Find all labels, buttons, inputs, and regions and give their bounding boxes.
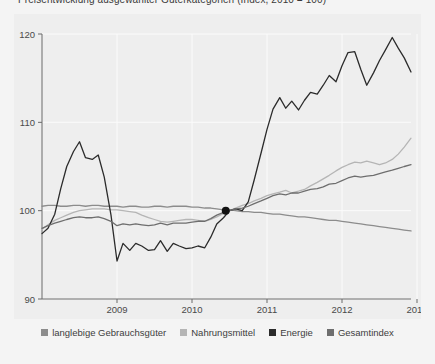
x-tick-label: 2011 [257, 304, 277, 315]
legend-swatch-icon [41, 329, 48, 336]
line-chart-svg: 9010011012020092010201120122013 [14, 14, 421, 319]
legend-label: Energie [280, 327, 313, 338]
legend-item-3[interactable]: Gesamtindex [327, 327, 394, 338]
legend-swatch-icon [327, 329, 334, 336]
x-tick-label: 2009 [106, 304, 127, 315]
y-tick-label: 100 [19, 205, 35, 216]
legend-label: Nahrungsmittel [191, 327, 255, 338]
legend-item-0[interactable]: langlebige Gebrauchsgüter [41, 327, 166, 338]
legend-swatch-icon [269, 329, 276, 336]
chart-figure: Preisentwicklung ausgewählter Güterkateg… [0, 0, 435, 364]
x-tick-label: 2010 [181, 304, 202, 315]
chart-legend: langlebige GebrauchsgüterNahrungsmittelE… [0, 327, 435, 338]
legend-item-1[interactable]: Nahrungsmittel [180, 327, 255, 338]
highlight-marker [222, 207, 230, 215]
y-tick-label: 120 [19, 29, 35, 40]
legend-label: Gesamtindex [338, 327, 394, 338]
legend-swatch-icon [180, 329, 187, 336]
x-tick-label: 2013 [406, 304, 421, 315]
chart-title: Preisentwicklung ausgewählter Güterkateg… [18, 0, 326, 5]
plot-background [14, 14, 421, 319]
plot-area: 9010011012020092010201120122013 [14, 14, 421, 319]
y-tick-label: 90 [24, 294, 35, 305]
legend-label: langlebige Gebrauchsgüter [52, 327, 166, 338]
marker-dot [222, 207, 230, 215]
y-tick-label: 110 [20, 117, 35, 128]
legend-item-2[interactable]: Energie [269, 327, 313, 338]
x-tick-label: 2012 [331, 304, 352, 315]
